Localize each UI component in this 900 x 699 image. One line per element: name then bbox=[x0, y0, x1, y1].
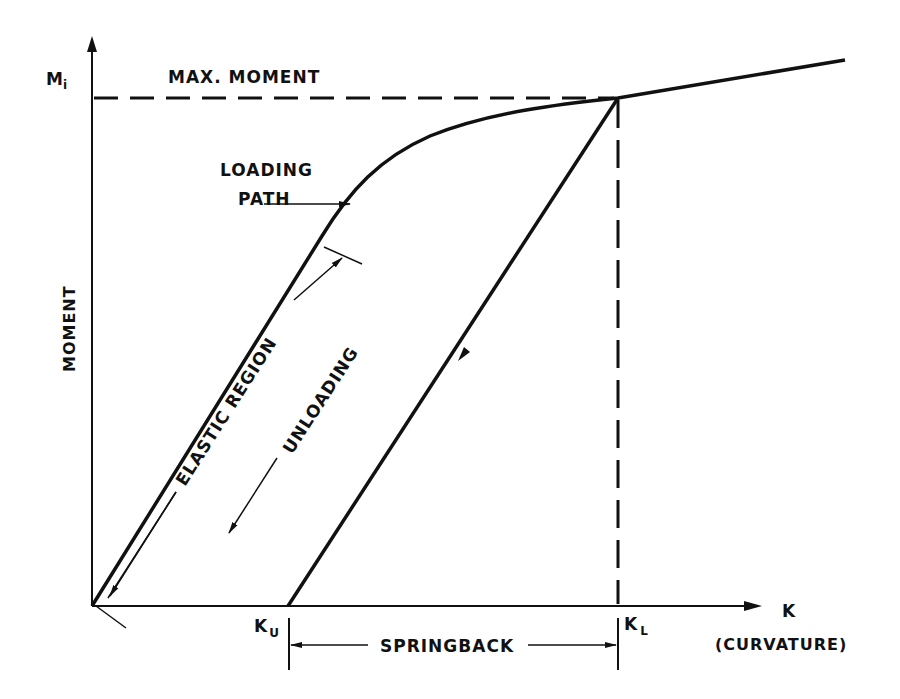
moment-curvature-diagram: ELASTIC REGION UNLOADING LOADING PATH MA… bbox=[0, 0, 900, 699]
m-i-label: Mi bbox=[46, 69, 67, 92]
k-u-label: KU bbox=[254, 616, 279, 640]
x-axis-sublabel: (CURVATURE) bbox=[715, 635, 847, 654]
elastic-region-label: ELASTIC REGION bbox=[172, 333, 281, 489]
elastic-region-dimension bbox=[96, 247, 362, 628]
unloading-direction-arrow-icon bbox=[458, 347, 470, 361]
y-axis-arrow-icon bbox=[87, 36, 97, 52]
springback-label: SPRINGBACK bbox=[380, 636, 514, 656]
elastic-end-tick bbox=[324, 247, 362, 264]
k-l-label: KL bbox=[624, 614, 648, 638]
loading-path-curve bbox=[92, 60, 845, 606]
y-axis bbox=[87, 36, 97, 606]
loading-path-label-line1: LOADING bbox=[220, 160, 313, 180]
elastic-start-tick bbox=[96, 606, 126, 628]
x-axis bbox=[92, 601, 762, 611]
max-moment-label: MAX. MOMENT bbox=[168, 67, 320, 87]
loading-path-label-line2: PATH bbox=[238, 189, 291, 209]
x-axis-arrow-icon bbox=[744, 601, 762, 611]
unloading-arrow bbox=[229, 458, 277, 533]
x-axis-label: K bbox=[782, 601, 796, 621]
unloading-line bbox=[288, 98, 618, 606]
unloading-label: UNLOADING bbox=[279, 343, 363, 457]
y-axis-label: MOMENT bbox=[60, 285, 79, 372]
